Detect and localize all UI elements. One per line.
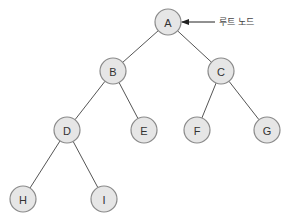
tree-node-d: D	[54, 117, 80, 143]
edge-d-i	[73, 141, 98, 187]
tree-nodes: ABCDEFGHI	[10, 9, 280, 212]
edge-a-c	[178, 31, 212, 62]
node-label: E	[140, 125, 147, 137]
node-label: I	[102, 194, 105, 206]
tree-diagram: ABCDEFGHI 루트 노드	[0, 0, 288, 220]
edge-c-f	[202, 83, 216, 118]
tree-node-i: I	[91, 186, 117, 212]
root-node-annotation: 루트 노드	[182, 17, 254, 27]
root-node-label: 루트 노드	[219, 17, 254, 27]
tree-node-a: A	[155, 9, 181, 35]
tree-edges	[30, 31, 259, 188]
node-label: B	[109, 66, 116, 78]
tree-node-g: G	[254, 117, 280, 143]
tree-node-f: F	[184, 117, 210, 143]
tree-node-b: B	[100, 58, 126, 84]
node-label: H	[19, 194, 27, 206]
edge-c-g	[229, 81, 259, 119]
edge-b-d	[75, 81, 105, 119]
node-label: C	[217, 66, 225, 78]
tree-node-e: E	[131, 117, 157, 143]
edge-b-e	[119, 83, 138, 119]
node-label: D	[63, 125, 71, 137]
tree-node-c: C	[208, 58, 234, 84]
node-label: F	[194, 125, 201, 137]
node-label: G	[263, 125, 272, 137]
tree-node-h: H	[10, 186, 36, 212]
edge-d-h	[30, 141, 60, 188]
node-label: A	[164, 17, 172, 29]
edge-a-b	[123, 31, 159, 63]
